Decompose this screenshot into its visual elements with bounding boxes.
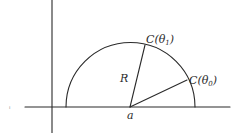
semicircle-arc — [66, 42, 195, 107]
diagram-canvas: C(θ1) C(θ0) R a ı — [0, 0, 243, 133]
radius-line-theta0 — [130, 80, 187, 107]
label-c-theta0: C(θ0) — [189, 74, 217, 88]
label-c-theta1: C(θ1) — [146, 33, 174, 47]
stray-mark: ı — [9, 104, 10, 110]
label-radius: R — [119, 72, 128, 85]
label-center: a — [127, 109, 134, 122]
radius-line-theta1 — [130, 45, 145, 107]
